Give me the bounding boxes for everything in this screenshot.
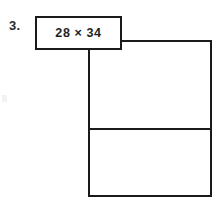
area-model-cell-top[interactable]	[90, 42, 210, 128]
scan-artifact	[2, 95, 7, 102]
worksheet-problem: 3. 28 × 34	[0, 0, 219, 207]
area-model-cell-bottom[interactable]	[90, 130, 210, 195]
problem-number: 3.	[9, 19, 20, 32]
multiplication-expression: 28 × 34	[55, 27, 101, 40]
expression-label-box: 28 × 34	[35, 16, 122, 50]
